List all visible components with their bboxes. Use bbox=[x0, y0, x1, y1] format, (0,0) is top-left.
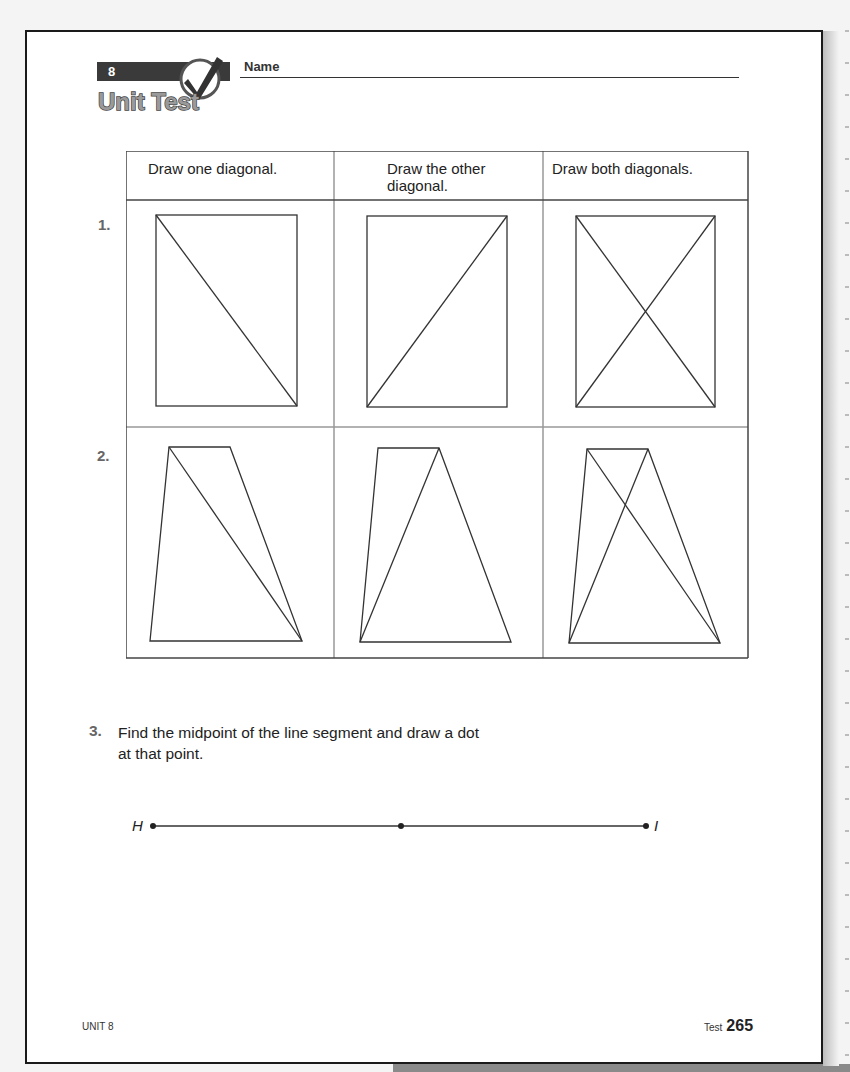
header-text: diagonal. bbox=[387, 177, 485, 194]
header-text: Draw one diagonal. bbox=[148, 160, 277, 177]
unit-test-badge-icon: 8 Unit Test bbox=[96, 55, 236, 117]
question-number-3: 3. bbox=[89, 722, 102, 740]
question-3-text: Find the midpoint of the line segment an… bbox=[118, 722, 588, 764]
endpoint-h-dot bbox=[150, 823, 156, 829]
unit-test-text: Unit Test bbox=[98, 88, 199, 115]
diagonal-line bbox=[156, 215, 297, 406]
diagonal-line bbox=[169, 447, 302, 641]
endpoint-i-dot bbox=[643, 823, 649, 829]
binder-dots bbox=[845, 0, 849, 1072]
header-draw-other: Draw the other diagonal. bbox=[387, 160, 485, 194]
trapezoid-shape bbox=[150, 447, 302, 641]
trapezoid-shape bbox=[569, 449, 720, 643]
background-strip bbox=[393, 1064, 850, 1072]
header-text: Draw the other bbox=[387, 160, 485, 177]
page-number: 265 bbox=[726, 1017, 753, 1034]
name-label: Name bbox=[244, 59, 279, 74]
header-draw-both: Draw both diagonals. bbox=[552, 160, 693, 177]
diagonal-line bbox=[587, 449, 720, 643]
unit-test-logo: 8 Unit Test bbox=[96, 55, 236, 117]
diagonal-line bbox=[360, 448, 439, 642]
trapezoid-shape bbox=[360, 448, 511, 642]
diagonals-table bbox=[126, 151, 752, 663]
question-number-2: 2. bbox=[97, 447, 110, 464]
unit-number: 8 bbox=[108, 64, 115, 79]
footer-page-info: Test265 bbox=[704, 1017, 753, 1035]
footer-test-label: Test bbox=[704, 1022, 722, 1033]
header-text: Draw both diagonals. bbox=[552, 160, 693, 177]
question-number-1: 1. bbox=[98, 216, 111, 233]
line-segment-hi bbox=[140, 816, 660, 836]
diagonal-line bbox=[569, 449, 648, 643]
footer-unit: UNIT 8 bbox=[82, 1021, 114, 1032]
midpoint-dot[interactable] bbox=[398, 823, 404, 829]
question-text-line: Find the midpoint of the line segment an… bbox=[118, 722, 588, 743]
diagonal-line bbox=[367, 216, 507, 407]
name-input-line[interactable] bbox=[240, 77, 739, 78]
question-text-line: at that point. bbox=[118, 743, 588, 764]
header-draw-one: Draw one diagonal. bbox=[148, 160, 277, 177]
page-shadow bbox=[823, 31, 839, 1066]
